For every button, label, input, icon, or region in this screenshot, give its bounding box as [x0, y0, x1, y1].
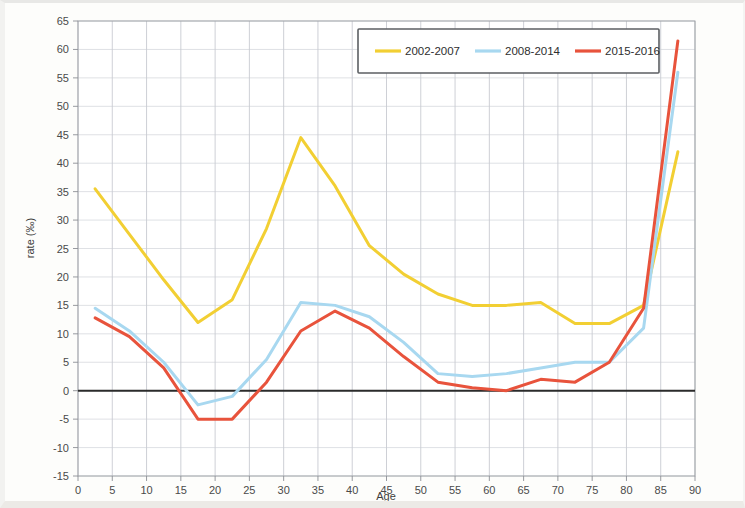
- x-tick-label: 90: [689, 484, 701, 496]
- x-tick-label: 10: [140, 484, 152, 496]
- legend-label-2002-2007: 2002-2007: [405, 45, 460, 57]
- y-tick-label: 65: [57, 15, 69, 27]
- x-tick-label: 75: [586, 484, 598, 496]
- legend-items: 2002-20072008-20142015-2016: [375, 45, 660, 57]
- y-axis-tick-labels: -15-10-505101520253035404550556065: [53, 15, 69, 482]
- y-axis-title: rate (‰): [24, 218, 36, 258]
- x-tick-label: 35: [312, 484, 324, 496]
- x-tick-label: 30: [278, 484, 290, 496]
- y-tick-label: 35: [57, 186, 69, 198]
- y-tick-label: 55: [57, 72, 69, 84]
- y-tick-label: 30: [57, 214, 69, 226]
- x-tick-label: 60: [483, 484, 495, 496]
- chart-canvas: 051015202530354045505560657075808590 -15…: [0, 0, 745, 508]
- y-tick-label: 40: [57, 157, 69, 169]
- x-tick-label: 15: [175, 484, 187, 496]
- x-tick-label: 85: [655, 484, 667, 496]
- y-tick-label: 60: [57, 43, 69, 55]
- x-axis-title: Age: [376, 490, 396, 502]
- x-tick-label: 50: [415, 484, 427, 496]
- x-tick-label: 20: [209, 484, 221, 496]
- x-tick-label: 70: [552, 484, 564, 496]
- x-tick-label: 5: [109, 484, 115, 496]
- y-tick-label: -5: [59, 413, 69, 425]
- x-tick-label: 65: [517, 484, 529, 496]
- y-tick-label: 45: [57, 129, 69, 141]
- x-axis-ticks: [78, 476, 695, 481]
- line-chart-figure: 051015202530354045505560657075808590 -15…: [0, 0, 745, 508]
- x-tick-label: 25: [243, 484, 255, 496]
- chart-legend: 2002-20072008-20142015-2016: [358, 29, 660, 73]
- y-tick-label: 0: [63, 385, 69, 397]
- y-tick-label: -15: [53, 470, 69, 482]
- y-axis-ticks: [73, 21, 78, 476]
- legend-label-2008-2014: 2008-2014: [505, 45, 561, 57]
- y-tick-label: 20: [57, 271, 69, 283]
- y-tick-label: 15: [57, 299, 69, 311]
- x-tick-label: 55: [449, 484, 461, 496]
- y-tick-label: 10: [57, 328, 69, 340]
- legend-label-2015-2016: 2015-2016: [605, 45, 660, 57]
- y-tick-label: 50: [57, 100, 69, 112]
- y-tick-label: 25: [57, 243, 69, 255]
- x-tick-label: 80: [620, 484, 632, 496]
- y-tick-label: 5: [63, 356, 69, 368]
- y-tick-label: -10: [53, 442, 69, 454]
- x-tick-label: 40: [346, 484, 358, 496]
- x-tick-label: 0: [75, 484, 81, 496]
